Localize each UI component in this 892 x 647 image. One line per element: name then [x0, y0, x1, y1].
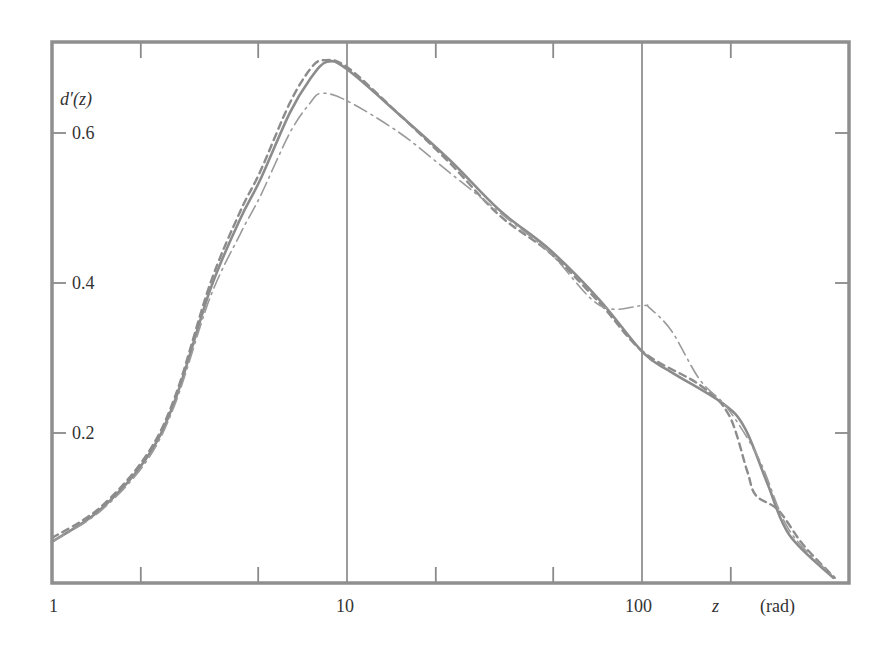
x-tick-label: 100 — [625, 596, 652, 616]
x-tick-label: 10 — [336, 596, 354, 616]
x-axis-unit: (rad) — [760, 596, 795, 617]
series-dashed-line — [52, 60, 835, 578]
decade-gridlines — [347, 42, 642, 583]
axis-ticks — [52, 42, 849, 583]
tick-labels: 1101000.20.40.6 — [49, 123, 652, 616]
y-axis-label-main: d′ — [60, 89, 74, 109]
x-tick-label: 1 — [49, 596, 58, 616]
y-tick-label: 0.4 — [72, 273, 95, 293]
series-solid-line — [52, 61, 833, 578]
x-axis-label: z — [711, 596, 719, 616]
y-tick-label: 0.2 — [72, 423, 95, 443]
plot-frame — [52, 42, 849, 583]
y-axis-label-arg: (z) — [73, 89, 92, 110]
series-dash-dot-line — [52, 93, 835, 578]
y-axis-label: d′(z) — [60, 89, 92, 110]
data-series — [52, 60, 835, 578]
chart: 1101000.20.40.6 d′(z) z (rad) — [0, 0, 892, 647]
y-tick-label: 0.6 — [72, 123, 95, 143]
